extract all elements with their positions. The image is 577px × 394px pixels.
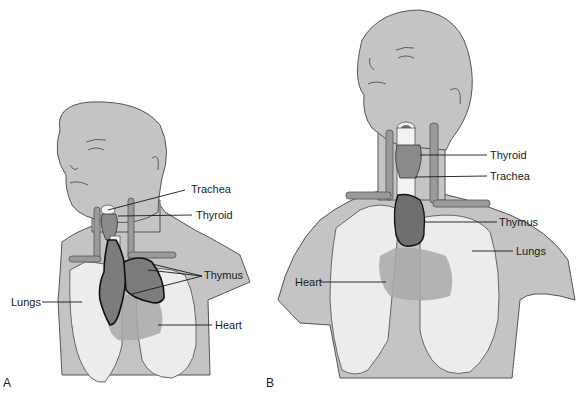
- panel-label-b: B: [266, 376, 274, 390]
- panel-b-adult: Thyroid Trachea Thymus Lungs Heart B: [266, 10, 575, 390]
- label-heart-b: Heart: [295, 276, 322, 288]
- adult-heart: [379, 248, 452, 301]
- infant-right-jugular: [128, 198, 134, 260]
- infant-right-subclavian: [128, 252, 176, 258]
- label-lungs-a: Lungs: [11, 296, 41, 308]
- adult-thymus: [394, 195, 424, 247]
- infant-head: [57, 102, 166, 223]
- panel-a-infant: Trachea Thyroid Thymus Lungs Heart A: [3, 102, 250, 390]
- label-thyroid-a: Thyroid: [196, 209, 233, 221]
- label-heart-a: Heart: [215, 319, 242, 331]
- label-thymus-a: Thymus: [204, 269, 244, 281]
- label-lungs-b: Lungs: [516, 245, 546, 257]
- infant-left-jugular: [94, 207, 100, 262]
- adult-right-subclavian: [433, 200, 490, 207]
- label-trachea-b: Trachea: [490, 170, 531, 182]
- infant-left-subclavian: [69, 256, 101, 262]
- adult-right-jugular: [430, 123, 438, 203]
- label-thymus-b: Thymus: [499, 216, 539, 228]
- adult-left-jugular: [386, 130, 393, 200]
- adult-left-subclavian: [346, 192, 391, 199]
- label-trachea-a: Trachea: [191, 183, 232, 195]
- label-thyroid-b: Thyroid: [490, 149, 527, 161]
- adult-thyroid: [396, 145, 422, 178]
- panel-label-a: A: [3, 376, 11, 390]
- anatomy-diagram: Trachea Thyroid Thymus Lungs Heart A: [0, 0, 577, 394]
